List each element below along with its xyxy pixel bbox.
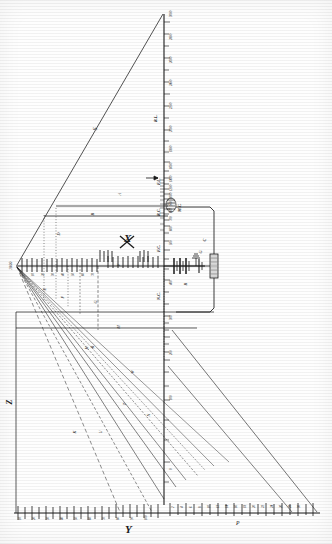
bscale-right-11: 24 (271, 505, 274, 508)
region-label-r: R (91, 346, 95, 349)
vscale-tick-9: 1200 (170, 185, 173, 191)
bscale-right-0: 2 (172, 506, 175, 508)
diagram-vector-layer (0, 0, 332, 544)
line-label-h: H (85, 347, 89, 350)
bscale-left-1: 20 (33, 517, 36, 520)
bscale-right-3: 8 (199, 506, 202, 508)
vscale-tick-4: 2200 (170, 103, 173, 109)
annotation-nc: N.C. (157, 292, 161, 300)
vscale-tick-8: 1400 (170, 176, 173, 182)
vscale-tick-3: 2400 (170, 80, 173, 86)
axis-label-y: Y (125, 524, 132, 535)
region-label-m: M (117, 325, 121, 329)
diagonal-line-right (172, 330, 317, 512)
dropper-guides (44, 208, 164, 360)
vscale-tick-5: 2000 (170, 126, 173, 132)
bscale-left-9: 100 (145, 515, 148, 520)
annotation-mc: M.C. (178, 203, 182, 212)
tscale-tick-6: 60 (82, 273, 85, 276)
tscale-tick-1: 10 (32, 273, 35, 276)
upper-scale-origin-label: 1000 (9, 262, 13, 270)
vscale-tick-17: 300 (170, 315, 173, 320)
line-label-s: S (93, 127, 99, 130)
annotation-fc: F.C. (157, 245, 161, 252)
annotation-rl: R.L. (154, 115, 158, 122)
vscale-tick-2: 2600 (170, 57, 173, 63)
bscale-left-7: 80 (117, 517, 120, 520)
bscale-right-9: 20 (253, 505, 256, 508)
vscale-tick-19: 100 (170, 395, 173, 400)
diagonal-line-right2 (168, 366, 292, 512)
vscale-tick-14: 600 (170, 226, 173, 231)
tscale-tick-7: 70 (92, 273, 95, 276)
vscale-tick-7: 1600 (170, 163, 173, 169)
tscale-tick-0: 0 (22, 274, 25, 276)
region-label-v: V (117, 264, 121, 267)
diagonal-line-s (17, 14, 163, 265)
bscale-right-12: 26 (280, 505, 283, 508)
circuit-wires (164, 207, 214, 312)
vscale-tick-12: 800 (170, 208, 173, 213)
line-label-t: T (123, 403, 127, 405)
bscale-right-1: 4 (181, 506, 184, 508)
vscale-tick-11: 900 (170, 201, 173, 206)
line-label-n: N (147, 414, 151, 417)
vscale-tick-13: 700 (170, 216, 173, 221)
bscale-right-6: 14 (226, 505, 229, 508)
vscale-tick-0: 3000 (170, 11, 173, 17)
bscale-left-3: 40 (61, 517, 64, 520)
vscale-tick-15: 500 (170, 240, 173, 245)
circuit-label-c: C (203, 239, 207, 242)
axis-label-p: P (236, 521, 239, 527)
vscale-tick-16: 400 (170, 280, 173, 285)
axis-label-x: X (124, 233, 131, 244)
upper-scale-stubs (100, 250, 148, 262)
tscale-tick-4: 40 (62, 273, 65, 276)
bscale-right-8: 18 (244, 505, 247, 508)
vscale-tick-1: 2800 (170, 34, 173, 40)
line-label-u: U (99, 431, 103, 434)
vscale-tick-20: 0 (170, 468, 173, 470)
vscale-tick-18: 200 (170, 350, 173, 355)
vertical-axis-ticks (164, 22, 170, 482)
bscale-left-2: 30 (47, 517, 50, 520)
line-label-d: D (57, 233, 61, 236)
vscale-tick-10: 1000 (170, 193, 173, 199)
tscale-tick-3: 30 (52, 273, 55, 276)
diagram-sheet: X Y Z P 3000 2800 2600 2400 2200 2000 18… (0, 0, 332, 544)
bscale-right-5: 12 (217, 505, 220, 508)
bscale-right-7: 16 (235, 505, 238, 508)
annotation-fl: F.L. (157, 178, 161, 185)
region-label-b: B (91, 213, 95, 216)
line-label-g: G (94, 301, 98, 304)
line-label-f: F (61, 296, 65, 299)
circuit-label-b: B (184, 283, 188, 286)
bscale-right-10: 22 (262, 505, 265, 508)
line-label-w: W (131, 370, 135, 374)
bscale-right-13: 28 (289, 505, 292, 508)
axis-label-z: Z (6, 400, 14, 405)
bscale-right-14: 30 (298, 505, 301, 508)
circuit-label-g: G (199, 251, 203, 254)
vscale-tick-6: 1800 (170, 146, 173, 152)
bscale-left-5: 60 (89, 517, 92, 520)
tscale-tick-2: 20 (42, 273, 45, 276)
vertical-dense-band (160, 180, 164, 230)
tscale-tick-5: 50 (72, 273, 75, 276)
annotation-rc: R.C. (157, 208, 161, 216)
region-label-a: A (118, 193, 122, 196)
bscale-left-0: 10 (19, 517, 22, 520)
line-label-k: K (73, 431, 77, 434)
bscale-right-4: 10 (208, 505, 211, 508)
bscale-left-4: 50 (75, 517, 78, 520)
line-label-e: E (43, 288, 47, 291)
upper-axis-ticks-left (22, 258, 97, 272)
radiating-line-fan (17, 267, 229, 512)
bscale-left-8: 90 (131, 517, 134, 520)
bscale-right-2: 6 (190, 506, 193, 508)
bscale-left-6: 70 (103, 517, 106, 520)
